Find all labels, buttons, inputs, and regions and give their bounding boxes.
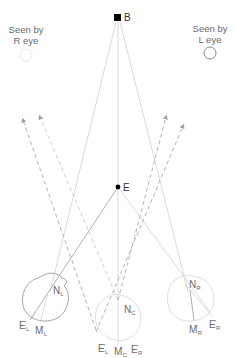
dashed-arrow-left-inner (40, 117, 118, 300)
label-e-prime-r-cyclopean: E'R (131, 342, 142, 358)
caption-right-line2: L eye (190, 35, 230, 46)
seen-by-l-eye-circle (204, 47, 216, 59)
label-e-prime-r: E'R (209, 317, 220, 334)
caption-left-line2: R eye (6, 36, 46, 47)
label-m-prime-l: M'L (35, 323, 47, 340)
label-n-r: NR (189, 279, 201, 294)
b-to-left-eye-line (50, 22, 116, 292)
caption-seen-by-r-eye: Seen by R eye (6, 25, 46, 46)
label-m-prime-r: M'R (189, 322, 202, 339)
seen-by-r-eye-circle (20, 49, 32, 61)
dashed-arrow-right-outer (96, 126, 183, 332)
label-e: E (123, 182, 130, 193)
diagram-canvas: Seen by R eye Seen by L eye B E NL E'L M… (0, 0, 236, 358)
label-b: B (124, 12, 131, 23)
caption-seen-by-l-eye: Seen by L eye (190, 24, 230, 45)
point-e-marker (116, 185, 121, 190)
caption-right-line1: Seen by (190, 24, 230, 35)
point-b-marker (114, 14, 121, 21)
lines-from-e (30, 187, 210, 320)
label-e-prime-l-cyclopean: E'L (98, 341, 108, 358)
label-n-l: NL (53, 285, 64, 300)
diagram-svg (0, 0, 236, 358)
caption-left-line1: Seen by (6, 25, 46, 36)
e-to-left-eye-line (30, 187, 118, 320)
label-n-c: NC (124, 304, 136, 319)
label-m-prime-c: M'C (114, 344, 127, 358)
label-e-prime-l: E'L (19, 318, 29, 335)
dashed-arrow-right-inner (118, 117, 166, 300)
left-eye-b-ray (41, 292, 48, 320)
